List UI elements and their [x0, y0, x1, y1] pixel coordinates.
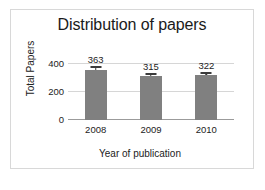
x-axis-title: Year of publication [40, 148, 240, 159]
y-axis-tick-labels: 400 200 0 [38, 0, 64, 190]
x-tick-label-2010: 2010 [179, 124, 234, 135]
y-axis-title: Total Papers [25, 33, 36, 105]
x-tick-label-2009: 2009 [123, 124, 178, 135]
chart-figure: Distribution of papers Total Papers 400 … [0, 0, 265, 190]
y-tick-label-400: 400 [38, 59, 64, 69]
y-tick-label-0: 0 [38, 115, 64, 125]
y-tick-label-200: 200 [38, 87, 64, 97]
x-axis-tick-labels: 2008 2009 2010 [68, 0, 234, 190]
x-tick-label-2008: 2008 [68, 124, 123, 135]
